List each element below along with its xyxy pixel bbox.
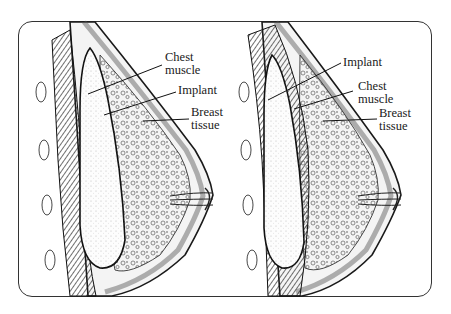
left-label-implant: Implant bbox=[178, 84, 217, 97]
label-line: muscle bbox=[165, 64, 200, 77]
label-line: muscle bbox=[358, 93, 393, 106]
right-label-implant: Implant bbox=[343, 56, 382, 69]
breast-implant-illustration bbox=[0, 0, 451, 314]
right-label-chest-muscle: Chest muscle bbox=[358, 80, 393, 106]
right-ribs bbox=[239, 82, 257, 270]
label-line: tissue bbox=[191, 119, 223, 132]
left-ribs bbox=[36, 82, 55, 270]
left-label-breast-tissue: Breast tissue bbox=[191, 106, 223, 132]
left-label-chest-muscle: Chest muscle bbox=[165, 51, 200, 77]
right-label-breast-tissue: Breast tissue bbox=[379, 107, 411, 133]
label-line: tissue bbox=[379, 120, 411, 133]
